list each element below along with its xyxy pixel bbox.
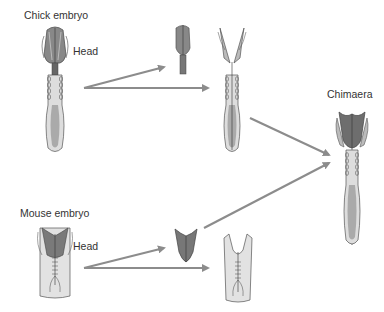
arrows: [84, 67, 329, 268]
chick-embryo-label: Chick embryo: [24, 9, 88, 21]
mouse-headless-body: [224, 234, 252, 302]
arrow-chick-to-head: [84, 67, 164, 88]
chimaera-label: Chimaera: [327, 88, 373, 100]
arrow-chick-body-to-chimaera: [250, 118, 329, 155]
chick-head-label: Head: [73, 45, 98, 57]
chimaera-diagram: [0, 0, 384, 312]
mouse-embryo-label: Mouse embryo: [20, 207, 89, 219]
arrow-mouse-head-to-chimaera: [204, 163, 329, 228]
chick-headless-body: [218, 28, 246, 152]
chimaera-embryo: [336, 112, 368, 245]
mouse-head-label: Head: [73, 240, 98, 252]
mouse-embryo: [38, 228, 73, 298]
mouse-head-fragment: [175, 229, 197, 262]
chick-head-fragment: [176, 25, 190, 74]
chick-embryo: [42, 27, 68, 152]
